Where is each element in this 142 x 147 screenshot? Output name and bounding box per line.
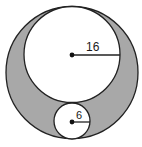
large-radius-label: 16 [86,41,99,53]
small-center-dot [70,120,75,125]
diagram-canvas [0,0,142,147]
large-center-dot [70,53,75,58]
circles-diagram: 16 6 [0,0,142,147]
small-radius-label: 6 [76,110,82,121]
